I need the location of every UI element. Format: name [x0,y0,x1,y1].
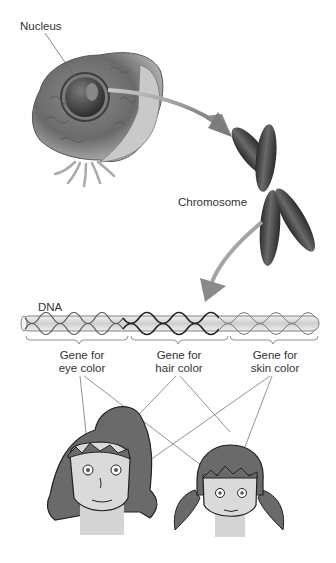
gene-hair-color-label: Gene for hair color [145,349,213,375]
chromosome-label: Chromosome [178,196,247,209]
gene-braces [26,336,318,344]
gene-label-line1: Gene for [240,349,310,362]
dna-label: DNA [38,301,62,314]
gene-eye-color-label: Gene for eye color [48,349,116,375]
gene-label-line2: hair color [145,362,213,375]
gene-label-line2: skin color [240,362,310,375]
daughter-face [174,445,283,537]
heredity-diagram [0,0,336,563]
gene-label-line1: Gene for [48,349,116,362]
dna-strand [21,313,319,335]
mother-face [48,407,157,535]
gene-skin-color-label: Gene for skin color [240,349,310,375]
nucleus-label: Nucleus [20,20,62,33]
cell-illustration [32,53,162,186]
arrow-chromosome-to-dna [200,222,262,302]
gene-label-line1: Gene for [145,349,213,362]
gene-label-line2: eye color [48,362,116,375]
